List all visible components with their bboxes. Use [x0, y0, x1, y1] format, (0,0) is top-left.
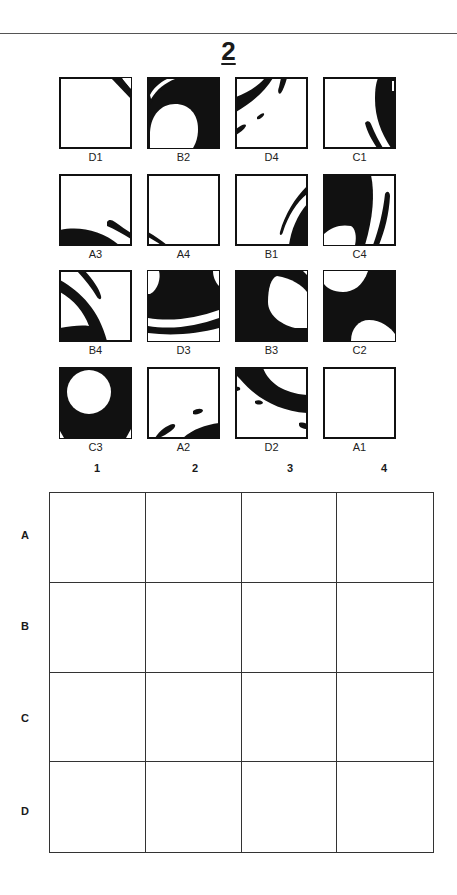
- puzzle-tile-b4[interactable]: B4: [59, 270, 132, 342]
- tile-b2-image: [147, 77, 220, 149]
- tile-c3-image: [59, 367, 132, 439]
- tile-label: C3: [59, 441, 132, 453]
- tile-b1-image: [235, 174, 308, 246]
- top-rule: [0, 33, 457, 34]
- page-number: 2: [0, 36, 457, 66]
- puzzle-tile-c2[interactable]: C2: [323, 270, 396, 342]
- tile-label: A3: [59, 248, 132, 260]
- answer-cell-d3[interactable]: [242, 762, 338, 852]
- row-label-c: C: [18, 712, 32, 724]
- answer-cell-c4[interactable]: [337, 673, 433, 763]
- answer-cell-a4[interactable]: [337, 493, 433, 583]
- answer-grid: [49, 492, 434, 853]
- answer-cell-d1[interactable]: [50, 762, 146, 852]
- tile-label: D4: [235, 151, 308, 163]
- tile-label: B3: [235, 344, 308, 356]
- tile-label: A1: [323, 441, 396, 453]
- tile-a1-image: [323, 367, 396, 439]
- answer-cell-d2[interactable]: [146, 762, 242, 852]
- column-label-2: 2: [185, 462, 205, 474]
- answer-cell-b2[interactable]: [146, 583, 242, 673]
- puzzle-tile-a1[interactable]: A1: [323, 367, 396, 439]
- puzzle-tile-c1[interactable]: C1: [323, 77, 396, 149]
- puzzle-tile-c3[interactable]: C3: [59, 367, 132, 439]
- tile-d4-image: [235, 77, 308, 149]
- tile-label: C2: [323, 344, 396, 356]
- column-label-3: 3: [280, 462, 300, 474]
- tile-label: C4: [323, 248, 396, 260]
- puzzle-tile-b3[interactable]: B3: [235, 270, 308, 342]
- tile-b4-image: [59, 270, 132, 342]
- puzzle-tile-a2[interactable]: A2: [147, 367, 220, 439]
- row-label-b: B: [18, 620, 32, 632]
- puzzle-tile-d3[interactable]: D3: [147, 270, 220, 342]
- answer-cell-c2[interactable]: [146, 673, 242, 763]
- row-label-a: A: [18, 529, 32, 541]
- tile-d3-image: [147, 270, 220, 342]
- answer-cell-a2[interactable]: [146, 493, 242, 583]
- tile-a3-image: [59, 174, 132, 246]
- tile-b3-image: [235, 270, 308, 342]
- tile-label: A4: [147, 248, 220, 260]
- tile-d2-image: [235, 367, 308, 439]
- tile-label: D3: [147, 344, 220, 356]
- answer-cell-a3[interactable]: [242, 493, 338, 583]
- tile-c4-image: [323, 174, 396, 246]
- puzzle-tile-d2[interactable]: D2: [235, 367, 308, 439]
- tile-label: B1: [235, 248, 308, 260]
- puzzle-tile-d1[interactable]: D1: [59, 77, 132, 149]
- answer-cell-b4[interactable]: [337, 583, 433, 673]
- puzzle-tile-d4[interactable]: D4: [235, 77, 308, 149]
- tile-label: D1: [59, 151, 132, 163]
- puzzle-tile-b2[interactable]: B2: [147, 77, 220, 149]
- column-label-1: 1: [87, 462, 107, 474]
- answer-cell-c3[interactable]: [242, 673, 338, 763]
- answer-cell-b3[interactable]: [242, 583, 338, 673]
- puzzle-tile-a4[interactable]: A4: [147, 174, 220, 246]
- puzzle-tile-c4[interactable]: C4: [323, 174, 396, 246]
- tile-label: C1: [323, 151, 396, 163]
- tile-label: B4: [59, 344, 132, 356]
- column-label-4: 4: [374, 462, 394, 474]
- tile-label: D2: [235, 441, 308, 453]
- tile-c2-image: [323, 270, 396, 342]
- tile-d1-image: [59, 77, 132, 149]
- row-label-d: D: [18, 805, 32, 817]
- answer-cell-a1[interactable]: [50, 493, 146, 583]
- puzzle-tile-b1[interactable]: B1: [235, 174, 308, 246]
- tile-a4-image: [147, 174, 220, 246]
- tile-a2-image: [147, 367, 220, 439]
- tile-label: B2: [147, 151, 220, 163]
- tile-c1-image: [323, 77, 396, 149]
- puzzle-tile-a3[interactable]: A3: [59, 174, 132, 246]
- tile-label: A2: [147, 441, 220, 453]
- answer-cell-b1[interactable]: [50, 583, 146, 673]
- answer-cell-d4[interactable]: [337, 762, 433, 852]
- answer-cell-c1[interactable]: [50, 673, 146, 763]
